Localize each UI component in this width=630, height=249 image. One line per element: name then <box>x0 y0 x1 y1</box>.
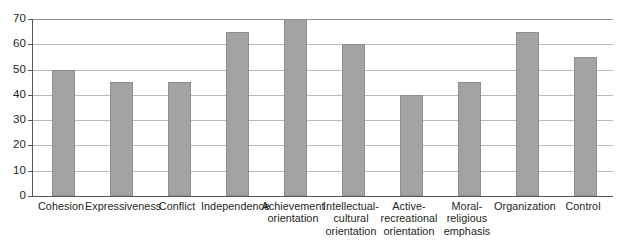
bar <box>574 57 597 196</box>
y-tick-label-0: 0 <box>0 189 26 201</box>
bar <box>516 32 539 196</box>
y-tick-label-30: 30 <box>0 113 26 125</box>
y-tick-label-70: 70 <box>0 12 26 24</box>
x-tick-label: Control <box>549 200 617 212</box>
bar <box>400 95 423 196</box>
y-tick-label-40: 40 <box>0 88 26 100</box>
bar <box>284 19 307 196</box>
plot-area <box>32 19 613 197</box>
bar <box>458 82 481 196</box>
y-tick-label-10: 10 <box>0 164 26 176</box>
bar <box>52 70 75 196</box>
bar-chart: 010203040506070 CohesionExpressivenessCo… <box>0 0 630 249</box>
y-axis-tick-labels: 010203040506070 <box>0 0 28 249</box>
y-tick-label-60: 60 <box>0 37 26 49</box>
y-tick-label-50: 50 <box>0 63 26 75</box>
bar <box>342 44 365 196</box>
x-axis-category-labels: CohesionExpressivenessConflictIndependen… <box>32 200 612 249</box>
bar <box>168 82 191 196</box>
bar <box>226 32 249 196</box>
bar-series <box>34 19 614 196</box>
y-tick-label-20: 20 <box>0 138 26 150</box>
bar <box>110 82 133 196</box>
